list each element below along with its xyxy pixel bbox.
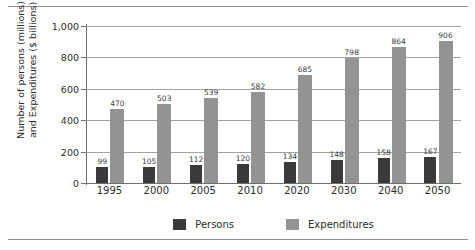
bar-value-label: 167 [423, 147, 437, 156]
bar-persons: 134 [284, 162, 296, 183]
bar-value-label: 158 [376, 148, 390, 157]
bar-expenditures: 798 [345, 58, 359, 183]
x-axis-line [86, 183, 461, 184]
legend-label-expenditures: Expenditures [308, 219, 374, 230]
y-axis-title-line-1: Number of persons (millions) [15, 0, 27, 155]
bar-persons: 105 [143, 167, 155, 183]
y-axis-title: Number of persons (millions) and Expendi… [15, 0, 39, 155]
x-axis-tick-label: 2030 [320, 185, 367, 196]
y-axis-tick-label: 200 [61, 146, 79, 157]
y-axis-tick-label: 1,000 [52, 21, 79, 32]
bar-group: 1125392005 [180, 26, 227, 183]
bar-value-label: 120 [236, 154, 250, 163]
bar-group: 1055032000 [133, 26, 180, 183]
bar-expenditures: 864 [392, 47, 406, 183]
bar-value-label: 906 [438, 31, 452, 40]
bar-group: 1346852020 [274, 26, 321, 183]
x-axis-tick-label: 2040 [367, 185, 414, 196]
legend-swatch-persons [173, 219, 186, 230]
bar-group: 1679062050 [414, 26, 461, 183]
bar-expenditures: 470 [110, 109, 124, 183]
page-rule-bottom [8, 239, 468, 240]
x-axis-tick-label: 2050 [414, 185, 461, 196]
legend-label-persons: Persons [195, 219, 234, 230]
bar-value-label: 582 [251, 82, 265, 91]
bar-value-label: 148 [330, 150, 344, 159]
x-axis-tick-label: 2000 [133, 185, 180, 196]
y-axis-title-line-2: and Expenditures ($ billions) [27, 0, 39, 155]
bar-value-label: 503 [157, 94, 171, 103]
bar-value-label: 685 [298, 65, 312, 74]
bar-persons: 99 [96, 167, 108, 183]
x-axis-tick-label: 2010 [227, 185, 274, 196]
chart-legend: Persons Expenditures [86, 215, 461, 233]
legend-item-expenditures: Expenditures [286, 219, 374, 230]
bar-group: 1588642040 [367, 26, 414, 183]
bar-persons: 120 [237, 164, 249, 183]
y-axis-tick-label: 600 [61, 83, 79, 94]
bar-expenditures: 582 [251, 92, 265, 183]
x-axis-tick-label: 2005 [180, 185, 227, 196]
legend-swatch-expenditures [286, 219, 299, 230]
y-axis-tick-mark [81, 183, 86, 184]
bar-value-label: 112 [189, 155, 203, 164]
bar-expenditures: 503 [157, 104, 171, 183]
bar-value-label: 798 [345, 48, 359, 57]
bar-value-label: 539 [204, 88, 218, 97]
y-axis-tick-label: 400 [61, 115, 79, 126]
bar-persons: 112 [190, 165, 202, 183]
bar-groups: 9947019951055032000112539200512058220101… [86, 26, 461, 183]
x-axis-tick-label: 1995 [86, 185, 133, 196]
x-axis-tick-label: 2020 [274, 185, 321, 196]
bar-persons: 148 [331, 160, 343, 183]
bar-value-label: 134 [283, 152, 297, 161]
y-axis-tick-label: 800 [61, 52, 79, 63]
bar-expenditures: 539 [204, 98, 218, 183]
bar-persons: 167 [424, 157, 436, 183]
bar-group: 1205822010 [227, 26, 274, 183]
plot-area: 02004006008001,000 994701995105503200011… [86, 26, 461, 183]
bar-group: 1487982030 [320, 26, 367, 183]
bar-expenditures: 906 [439, 41, 453, 183]
bar-value-label: 864 [391, 37, 405, 46]
bar-value-label: 99 [98, 157, 108, 166]
bar-expenditures: 685 [298, 75, 312, 183]
bar-persons: 158 [378, 158, 390, 183]
bar-value-label: 105 [142, 157, 156, 166]
bar-value-label: 470 [110, 99, 124, 108]
page-rule-top [8, 6, 468, 7]
bar-group: 994701995 [86, 26, 133, 183]
legend-item-persons: Persons [173, 219, 234, 230]
y-axis-tick-label: 0 [73, 178, 79, 189]
